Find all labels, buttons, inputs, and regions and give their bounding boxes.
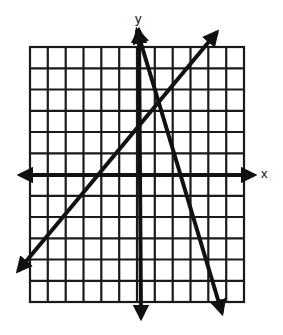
x-axis-label: x	[261, 167, 268, 180]
y-axis-label: y	[135, 12, 142, 25]
coordinate-graph	[0, 0, 283, 335]
y-axis	[139, 30, 141, 318]
